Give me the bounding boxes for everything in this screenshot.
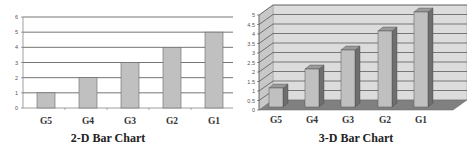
y-tick-label: 4 — [252, 31, 255, 37]
chart-2d-title: 2-D Bar Chart — [71, 131, 145, 145]
y-tick-label: 0 — [15, 105, 18, 111]
bar-g2 — [163, 47, 181, 108]
y-tick-label: 4.5 — [247, 22, 255, 28]
chart-3d-title: 3-D Bar Chart — [319, 131, 393, 145]
y-tick-label: 2 — [252, 69, 255, 75]
x-category-label: G4 — [306, 115, 318, 125]
y-tick-label: 0.5 — [247, 98, 255, 104]
x-category-label: G5 — [40, 116, 52, 126]
y-tick-label: 1.5 — [247, 79, 255, 85]
bar-g5 — [269, 84, 288, 107]
y-tick-label: 2 — [15, 75, 18, 81]
y-tick-label: 3 — [252, 50, 255, 56]
bar-g5 — [37, 93, 55, 108]
y-tick-label: 3 — [15, 60, 18, 66]
chart-figure: 0123456G5G4G3G2G1 00.511.522.533.544.55G… — [0, 0, 467, 155]
y-tick-label: 0 — [252, 107, 255, 113]
bar-g4 — [79, 78, 97, 108]
x-category-label: G4 — [82, 116, 94, 126]
bar-g3 — [341, 46, 360, 107]
y-tick-label: 3.5 — [247, 41, 255, 47]
chart-2d: 0123456G5G4G3G2G1 — [15, 14, 233, 126]
y-tick-label: 5 — [15, 29, 18, 35]
y-tick-label: 1 — [15, 90, 18, 96]
y-tick-label: 1 — [252, 88, 255, 94]
y-tick-label: 4 — [15, 44, 18, 50]
x-category-label: G2 — [379, 115, 391, 125]
y-tick-label: 2.5 — [247, 60, 255, 66]
chart-3d: 00.511.522.533.544.55G5G4G3G2G1 — [247, 5, 467, 125]
y-tick-label: 6 — [15, 14, 18, 20]
bar-g1 — [414, 8, 433, 107]
floor — [259, 100, 467, 110]
y-tick-label: 5 — [252, 12, 255, 18]
bar-g1 — [205, 32, 223, 108]
x-category-label: G3 — [342, 115, 354, 125]
x-category-label: G2 — [166, 116, 178, 126]
bar-g4 — [305, 65, 324, 107]
x-category-label: G1 — [208, 116, 220, 126]
x-category-label: G3 — [124, 116, 136, 126]
bar-g2 — [378, 27, 397, 107]
x-category-label: G5 — [270, 115, 282, 125]
x-category-label: G1 — [415, 115, 427, 125]
bar-g3 — [121, 63, 139, 109]
